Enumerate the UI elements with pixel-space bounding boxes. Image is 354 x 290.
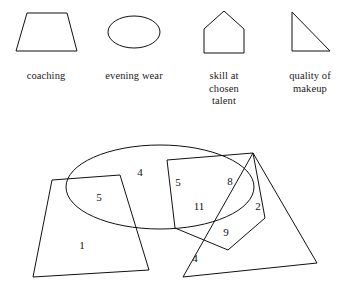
region-count-5: 11 xyxy=(194,200,205,212)
legend: coaching evening wear skill atchosentale… xyxy=(0,0,354,118)
legend-label-coaching: coaching xyxy=(2,70,90,83)
set-shape-coaching xyxy=(33,175,149,277)
legend-label-skill-at-chosen-talent: skill atchosentalent xyxy=(180,70,268,108)
region-count-3: 4 xyxy=(137,166,143,178)
region-count-6: 8 xyxy=(227,175,233,187)
set-shape-evening-wear xyxy=(66,145,254,229)
venn-region: 1 5 4 5 11 8 2 9 4 xyxy=(0,118,354,290)
region-count-2: 5 xyxy=(96,191,102,203)
region-count-4: 5 xyxy=(175,176,181,188)
region-count-8: 9 xyxy=(223,226,229,238)
legend-item-coaching: coaching xyxy=(2,0,90,118)
region-count-7: 2 xyxy=(255,200,261,212)
legend-item-evening-wear: evening wear xyxy=(90,0,178,118)
region-count-1: 1 xyxy=(79,239,85,251)
legend-label-evening-wear: evening wear xyxy=(90,70,178,83)
pentagon-house-icon xyxy=(180,8,268,56)
set-shape-skill-at-chosen-talent xyxy=(167,153,265,250)
trapezoid-icon xyxy=(2,8,90,56)
ellipse-icon xyxy=(90,8,178,56)
set-shape-quality-of-makeup xyxy=(183,153,317,277)
right-triangle-icon xyxy=(266,8,354,56)
legend-label-quality-of-makeup: quality ofmakeup xyxy=(266,70,354,95)
legend-item-skill-at-chosen-talent: skill atchosentalent xyxy=(180,0,268,118)
venn-diagram-figure: coaching evening wear skill atchosentale… xyxy=(0,0,354,290)
region-count-9: 4 xyxy=(192,252,198,264)
legend-item-quality-of-makeup: quality ofmakeup xyxy=(266,0,354,118)
